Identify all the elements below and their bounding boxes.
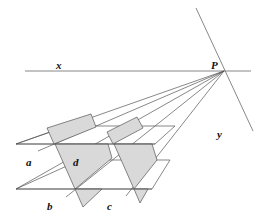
label-y: y — [215, 128, 222, 140]
label-b: b — [47, 200, 53, 212]
diagram-canvas: x P y a d b c — [0, 0, 264, 219]
line-y — [196, 8, 253, 131]
label-c: c — [107, 200, 112, 212]
plane-d — [47, 114, 112, 207]
label-d: d — [73, 156, 79, 168]
label-a: a — [26, 156, 32, 168]
label-x: x — [55, 59, 62, 71]
label-P: P — [211, 59, 218, 71]
